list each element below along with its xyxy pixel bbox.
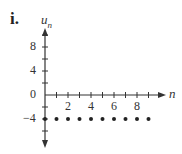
data-point [43, 117, 47, 121]
x-axis-arrow-right-icon [158, 92, 166, 98]
y-axis-arrow-down-icon [42, 140, 48, 148]
data-point [66, 117, 70, 121]
data-point [147, 117, 151, 121]
data-point [78, 117, 82, 121]
data-point [55, 117, 59, 121]
data-point [101, 117, 105, 121]
data-point [124, 117, 128, 121]
data-points [43, 117, 151, 121]
data-point [89, 117, 93, 121]
chart-plot [0, 0, 182, 154]
data-point [135, 117, 139, 121]
data-point [112, 117, 116, 121]
